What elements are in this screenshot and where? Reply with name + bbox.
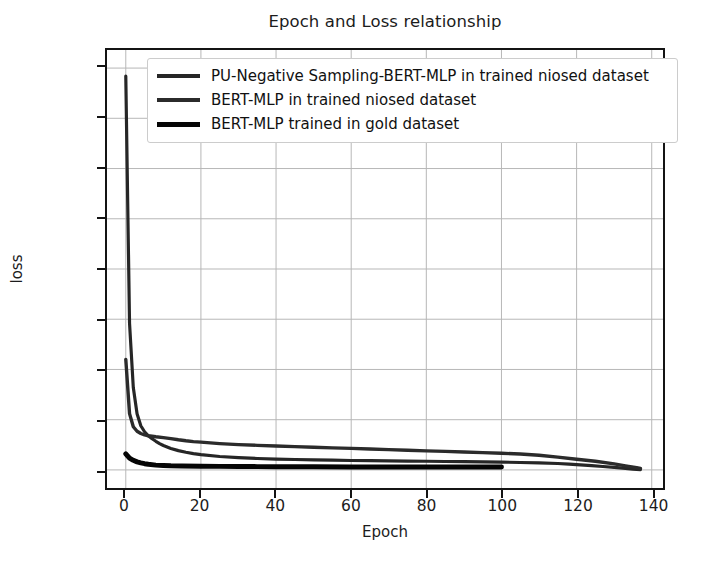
y-axis-label: loss: [8, 255, 26, 284]
y-tick-mark: [97, 65, 105, 67]
x-tick-label: 120: [563, 497, 593, 515]
legend-item: PU-Negative Sampling-BERT-MLP in trained…: [157, 64, 668, 88]
x-tick-mark: [350, 490, 352, 498]
chart-figure: Epoch and Loss relationship loss Epoch 0…: [0, 0, 713, 573]
x-tick-mark: [501, 490, 503, 498]
legend-line-swatch: [157, 98, 200, 101]
x-tick-mark: [123, 490, 125, 498]
legend-item: BERT-MLP trained in gold dataset: [157, 112, 668, 136]
y-tick-mark: [97, 217, 105, 219]
x-tick-label: 60: [341, 497, 361, 515]
x-tick-mark: [577, 490, 579, 498]
legend-item: BERT-MLP in trained niosed dataset: [157, 88, 668, 112]
x-tick-mark: [653, 490, 655, 498]
y-tick-mark: [97, 420, 105, 422]
y-tick-mark: [97, 167, 105, 169]
x-tick-label: 140: [639, 497, 669, 515]
chart-legend: PU-Negative Sampling-BERT-MLP in trained…: [147, 58, 678, 143]
series-line-1: [126, 359, 641, 468]
y-tick-mark: [97, 116, 105, 118]
y-tick-mark: [97, 471, 105, 473]
legend-item-label: BERT-MLP trained in gold dataset: [211, 117, 459, 132]
x-tick-mark: [426, 490, 428, 498]
x-tick-mark: [199, 490, 201, 498]
legend-line-swatch: [157, 122, 200, 127]
x-tick-label: 40: [265, 497, 285, 515]
x-tick-label: 0: [119, 497, 129, 515]
x-tick-mark: [274, 490, 276, 498]
y-tick-mark: [97, 369, 105, 371]
legend-item-label: BERT-MLP in trained niosed dataset: [211, 93, 476, 108]
legend-item-label: PU-Negative Sampling-BERT-MLP in trained…: [211, 69, 649, 84]
x-tick-label: 20: [190, 497, 210, 515]
x-axis-label: Epoch: [362, 523, 408, 541]
y-tick-mark: [97, 319, 105, 321]
y-tick-mark: [97, 268, 105, 270]
legend-line-swatch: [157, 74, 200, 77]
chart-title: Epoch and Loss relationship: [105, 12, 665, 31]
x-tick-label: 80: [417, 497, 437, 515]
x-tick-label: 100: [488, 497, 518, 515]
